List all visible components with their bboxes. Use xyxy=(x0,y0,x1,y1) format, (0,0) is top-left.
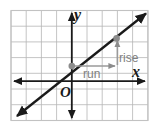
slope-graph-figure: y x O rise run xyxy=(0,0,156,131)
y-axis-label: y xyxy=(74,7,81,23)
run-label: run xyxy=(83,68,100,80)
x-axis-label: x xyxy=(132,64,140,80)
point-marker-second xyxy=(113,35,120,42)
origin-label: O xyxy=(60,85,71,100)
point-marker-origin xyxy=(69,63,76,70)
rise-label: rise xyxy=(119,52,138,64)
